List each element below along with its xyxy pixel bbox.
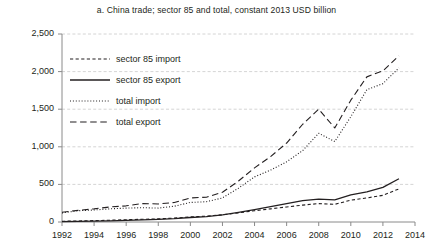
legend-item-sector-85-import: sector 85 import — [70, 48, 181, 69]
series-line-sector-85-export — [62, 179, 399, 222]
x-tick-label: 2002 — [205, 230, 239, 240]
y-tick-label: 1,000 — [10, 141, 54, 151]
legend-item-sector-85-export: sector 85 export — [70, 69, 181, 90]
x-tick-label: 2010 — [334, 230, 368, 240]
x-tick-label: 2000 — [173, 230, 207, 240]
plot-area — [0, 0, 433, 251]
legend-label: total export — [116, 117, 161, 127]
legend-item-total-import: total import — [70, 90, 181, 111]
y-tick-label: 2,000 — [10, 66, 54, 76]
x-tick-label: 2014 — [398, 230, 432, 240]
y-tick-label: 2,500 — [10, 28, 54, 38]
legend-key-total-import — [70, 96, 110, 106]
x-tick-label: 1992 — [45, 230, 79, 240]
chart-figure: a. China trade; sector 85 and total, con… — [0, 0, 433, 251]
legend-key-sector-85-export — [70, 75, 110, 85]
legend-key-sector-85-import — [70, 54, 110, 64]
y-tick-label: 0 — [10, 216, 54, 226]
x-tick-label: 1998 — [141, 230, 175, 240]
legend-key-total-export — [70, 117, 110, 127]
legend-label: sector 85 import — [116, 54, 181, 64]
legend-label: sector 85 export — [116, 75, 181, 85]
legend-label: total import — [116, 96, 161, 106]
chart-legend: sector 85 import sector 85 export total … — [70, 48, 181, 132]
y-tick-label: 500 — [10, 178, 54, 188]
x-tick-label: 2004 — [238, 230, 272, 240]
x-tick-label: 2008 — [302, 230, 336, 240]
y-tick-label: 1,500 — [10, 103, 54, 113]
x-tick-label: 1994 — [77, 230, 111, 240]
x-tick-label: 2006 — [270, 230, 304, 240]
legend-item-total-export: total export — [70, 111, 181, 132]
x-tick-label: 1996 — [109, 230, 143, 240]
x-tick-label: 2012 — [366, 230, 400, 240]
series-line-sector-85-import — [62, 189, 399, 221]
